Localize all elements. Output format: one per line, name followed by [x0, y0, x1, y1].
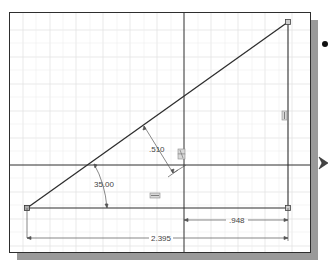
- sketch-point-top-right[interactable]: [286, 20, 291, 25]
- sketch-grid: [10, 13, 310, 252]
- bullet-icon: [322, 41, 328, 47]
- vertical-constraint-icon[interactable]: [282, 111, 287, 120]
- sketch-line-hypotenuse[interactable]: [27, 22, 288, 208]
- arrow-pointer-icon: [318, 156, 329, 170]
- dimension-horizontal-overall-label[interactable]: 2.395: [151, 234, 172, 243]
- parallel-constraint-icon[interactable]: [178, 149, 185, 159]
- dimension-angle-label[interactable]: 35.00: [94, 180, 115, 189]
- window-shadow-right: [310, 20, 318, 260]
- sketch-canvas[interactable]: .510 35.00 .948: [10, 13, 310, 252]
- dimension-offset-label[interactable]: .510: [149, 145, 165, 154]
- horizontal-constraint-icon[interactable]: [150, 193, 160, 198]
- document-page: .510 35.00 .948: [0, 0, 329, 269]
- window-shadow-bottom: [17, 252, 318, 260]
- dimension-horizontal-short-label[interactable]: .948: [229, 216, 245, 225]
- sketch-graphics-window[interactable]: .510 35.00 .948: [9, 12, 311, 253]
